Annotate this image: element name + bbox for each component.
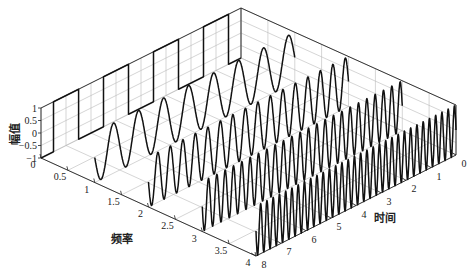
- time-tick-label: 7: [287, 246, 292, 257]
- time-tick-label: 0: [462, 158, 467, 169]
- frequency-tick-label: 2.5: [161, 220, 174, 231]
- z-tick-label: 0.5: [25, 115, 38, 126]
- floor-grid-line: [91, 133, 306, 231]
- time-tick-label: 4: [362, 209, 367, 220]
- z-tick-label: 1: [32, 103, 37, 114]
- frequency-tick-label: 1.5: [107, 196, 120, 207]
- floor-grid-line: [166, 96, 381, 193]
- time-tick-label: 2: [412, 183, 417, 194]
- time-tick-label: 5: [337, 221, 342, 232]
- floor-grid-line: [191, 83, 406, 180]
- time-tick-label: 8: [262, 259, 267, 270]
- frequency-tick-label: 1: [84, 184, 89, 195]
- frequency-tick-label: 2: [138, 208, 143, 219]
- floor-grid-line: [116, 121, 331, 219]
- floor-grid-line: [141, 108, 356, 206]
- back-wall-grid-line: [41, 33, 241, 133]
- floor-grid-line: [216, 71, 431, 168]
- frequency-tick-label: 3: [192, 233, 197, 244]
- z-axis-label: 幅值: [8, 123, 22, 145]
- y-axis-label: 频率: [111, 232, 133, 246]
- time-tick-label: 3: [387, 196, 392, 207]
- frequency-tick-label: 4: [246, 257, 251, 268]
- frequency-tick-label: 0: [31, 159, 36, 170]
- time-tick-label: 6: [312, 234, 317, 245]
- frequency-tick-label: 3.5: [215, 245, 228, 256]
- waterfall-chart: −1−0.500.5100.511.522.533.54012345678 幅值…: [0, 0, 471, 273]
- x-axis-label: 时间: [374, 211, 396, 225]
- frequency-tick-label: 0.5: [54, 171, 67, 182]
- time-tick-label: 1: [437, 171, 442, 182]
- z-tick-label: 0: [32, 128, 37, 139]
